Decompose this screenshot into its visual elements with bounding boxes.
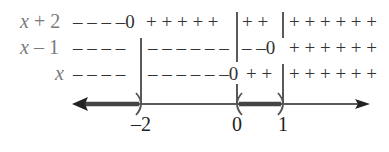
tick-label-0: 0 [232, 113, 242, 135]
row1-signs-seg3: + + [242, 11, 268, 32]
row1-signs-seg4: + + + + + + [289, 11, 377, 32]
row1-signs-seg1: – – – –0 [72, 11, 135, 32]
row3-signs-seg3: + + [246, 63, 272, 84]
row-label-x: x [54, 62, 64, 84]
row-label-x-plus-2: x + 2 [19, 10, 60, 32]
row-label-x-minus-1: x – 1 [19, 36, 59, 58]
row2-signs-seg2: – – – – – – [147, 37, 229, 58]
row2-signs-seg4: + + + + + + [289, 37, 377, 58]
tick-label-1: 1 [278, 113, 288, 135]
row1-signs-seg2: + + + + + [146, 11, 219, 32]
row3-signs-seg1: – – – – [72, 63, 126, 84]
tick-label-neg2: –2 [130, 113, 151, 135]
row2-signs-seg1: – – – – [72, 37, 126, 58]
row2-signs-seg3: – –0 [241, 37, 275, 58]
sign-chart-diagram: x + 2 x – 1 x – – – –0 + + + + + + + + +… [0, 0, 389, 152]
row3-signs-seg4: + + + + + + [289, 63, 377, 84]
row3-signs-seg2: – – – – – –0 [147, 63, 238, 84]
